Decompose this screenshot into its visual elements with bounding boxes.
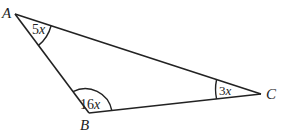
angle-label-a: 5x <box>32 22 46 37</box>
vertex-label-a: A <box>1 5 12 21</box>
side-ac <box>15 14 261 94</box>
vertex-label-b: B <box>80 117 89 133</box>
side-ab <box>15 14 89 113</box>
angle-label-c: 3x <box>219 83 232 98</box>
angle-arc-c <box>216 80 217 99</box>
side-bc <box>89 94 261 113</box>
triangle-diagram: A B C 5x 16x 3x <box>0 0 281 135</box>
vertex-label-c: C <box>266 86 277 102</box>
angle-label-b: 16x <box>80 97 101 112</box>
